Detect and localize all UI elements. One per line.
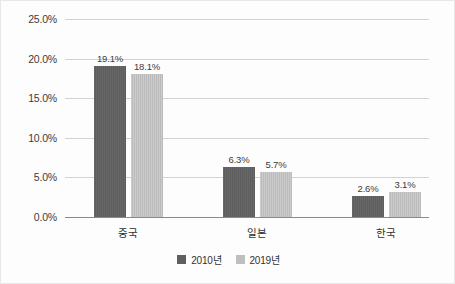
category-label-korea: 한국 [341, 225, 431, 240]
bar-china-2010 [94, 66, 126, 217]
legend-label-2010: 2010년 [191, 252, 221, 267]
y-tick-label-15: 15.0% [1, 92, 57, 104]
bar-group-japan: 6.3% 5.7% [223, 19, 292, 217]
bar-label-korea-2019: 3.1% [382, 179, 428, 190]
bar-korea-2019 [389, 192, 421, 217]
bar-group-korea: 2.6% 3.1% [352, 19, 421, 217]
bar-japan-2010 [223, 167, 255, 217]
legend-swatch-2019-icon [236, 255, 245, 264]
legend-label-2019: 2019년 [250, 252, 280, 267]
plot-area: 19.1% 18.1% 6.3% 5.7% 2.6% 3.1% [65, 19, 429, 217]
legend-item-2010: 2010년 [177, 252, 221, 267]
y-tick-label-10: 10.0% [1, 132, 57, 144]
bar-korea-2010 [352, 196, 384, 217]
bar-japan-2019 [260, 172, 292, 217]
chart-legend: 2010년 2019년 [1, 252, 455, 267]
y-tick-label-5: 5.0% [1, 171, 57, 183]
bar-label-china-2019: 18.1% [124, 61, 170, 72]
y-tick-label-0: 0.0% [1, 211, 57, 223]
legend-item-2019: 2019년 [236, 252, 280, 267]
x-axis-baseline [65, 217, 429, 218]
legend-swatch-2010-icon [177, 255, 186, 264]
bar-chart-figure: 25.0% 20.0% 15.0% 10.0% 5.0% 0.0% 19.1% … [0, 0, 455, 284]
category-label-japan: 일본 [212, 225, 302, 240]
category-label-china: 중국 [83, 225, 173, 240]
y-tick-label-20: 20.0% [1, 53, 57, 65]
bar-china-2019 [131, 74, 163, 217]
y-tick-label-25: 25.0% [1, 13, 57, 25]
bar-group-china: 19.1% 18.1% [94, 19, 163, 217]
bar-label-japan-2019: 5.7% [253, 159, 299, 170]
